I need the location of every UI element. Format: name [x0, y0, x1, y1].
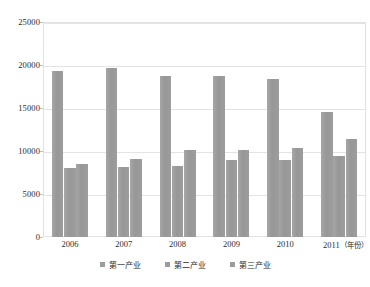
legend-label: 第二产业: [174, 259, 206, 270]
bar: [130, 159, 142, 237]
bar: [292, 148, 304, 237]
x-axis-tick-label: 2011（年份）: [323, 239, 368, 250]
legend-item[interactable]: 第三产业: [230, 259, 271, 270]
bar: [238, 150, 250, 237]
bar-group: [258, 22, 312, 237]
bar: [333, 156, 345, 237]
x-axis-tick-text: 2011: [323, 240, 340, 250]
legend-label: 第一产业: [109, 259, 141, 270]
bar: [267, 79, 279, 237]
x-axis-tick-label: 2006: [61, 239, 78, 249]
y-axis-tick-label: 15000: [18, 103, 40, 113]
x-axis-tick-label: 2010: [277, 239, 294, 249]
legend-item[interactable]: 第一产业: [100, 259, 141, 270]
x-axis-tick-text: 2007: [115, 239, 132, 249]
legend-label: 第三产业: [239, 259, 271, 270]
x-axis-tick-label: 2009: [223, 239, 240, 249]
bar: [346, 139, 358, 237]
bar: [64, 168, 76, 237]
legend-item[interactable]: 第二产业: [165, 259, 206, 270]
legend-swatch-icon: [165, 262, 170, 267]
legend-swatch-icon: [100, 262, 105, 267]
x-axis: 200620072008200920102011（年份）: [43, 239, 366, 255]
x-axis-tick-label: 2008: [169, 239, 186, 249]
bar-group: [205, 22, 259, 237]
bar: [52, 71, 64, 237]
bar: [321, 112, 333, 237]
x-axis-tick-text: 2010: [277, 239, 294, 249]
bar-group: [151, 22, 205, 237]
y-axis-tick-label: 10000: [18, 146, 40, 156]
x-axis-tick-text: 2009: [223, 239, 240, 249]
bar-group: [97, 22, 151, 237]
bar: [279, 160, 291, 237]
bar-group: [312, 22, 366, 237]
x-axis-tick-text: 2006: [61, 239, 78, 249]
bar: [213, 76, 225, 237]
bar: [118, 167, 130, 237]
x-axis-tick-text: 2008: [169, 239, 186, 249]
bar: [76, 164, 88, 237]
y-axis-tick-label: 20000: [18, 60, 40, 70]
bar: [184, 150, 196, 237]
bar: [106, 68, 118, 237]
y-axis-tick-label: 5000: [23, 189, 40, 199]
x-axis-unit-label: （年份）: [340, 241, 368, 250]
bar: [172, 166, 184, 237]
bar: [160, 76, 172, 237]
bar-chart: 0500010000150002000025000 20062007200820…: [0, 0, 370, 287]
bar: [226, 160, 238, 237]
legend-swatch-icon: [230, 262, 235, 267]
x-axis-tick-label: 2007: [115, 239, 132, 249]
bar-group: [43, 22, 97, 237]
y-axis-tick-label: 25000: [18, 17, 40, 27]
chart-legend: 第一产业第二产业第三产业: [0, 259, 370, 270]
bars-layer: [43, 22, 366, 237]
y-axis-tick-mark: [40, 237, 43, 238]
y-axis: 0500010000150002000025000: [0, 22, 40, 237]
